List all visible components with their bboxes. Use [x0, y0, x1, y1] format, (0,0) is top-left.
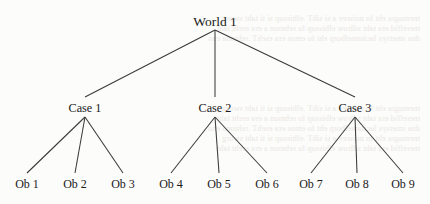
edge-root-to-case-3	[215, 30, 355, 97]
edge-root-to-case-1	[85, 30, 215, 97]
edge-case-2-to-observation-6	[215, 117, 267, 173]
node-label-observation-7: Ob 7	[299, 177, 323, 192]
node-label-observation-8: Ob 8	[345, 177, 369, 192]
node-label-observation-2: Ob 2	[63, 177, 87, 192]
node-label-case-3: Case 3	[339, 101, 372, 116]
edge-case-1-to-observation-3	[85, 117, 123, 173]
node-label-observation-5: Ob 5	[207, 177, 231, 192]
node-label-root: World 1	[193, 14, 237, 30]
tree-diagram-figure: tnemugra eht fo noisrev a si sihT .elbis…	[0, 0, 430, 204]
node-label-observation-1: Ob 1	[15, 177, 39, 192]
edge-case-3-to-observation-7	[311, 117, 355, 173]
edge-case-3-to-observation-9	[355, 117, 403, 173]
node-label-observation-3: Ob 3	[111, 177, 135, 192]
edge-case-2-to-observation-5	[215, 117, 219, 173]
node-label-case-2: Case 2	[199, 101, 232, 116]
node-label-case-1: Case 1	[69, 101, 102, 116]
node-label-observation-9: Ob 9	[391, 177, 415, 192]
node-label-observation-6: Ob 6	[255, 177, 279, 192]
edge-case-2-to-observation-4	[171, 117, 215, 173]
edge-case-3-to-observation-8	[355, 117, 357, 173]
node-label-observation-4: Ob 4	[159, 177, 183, 192]
